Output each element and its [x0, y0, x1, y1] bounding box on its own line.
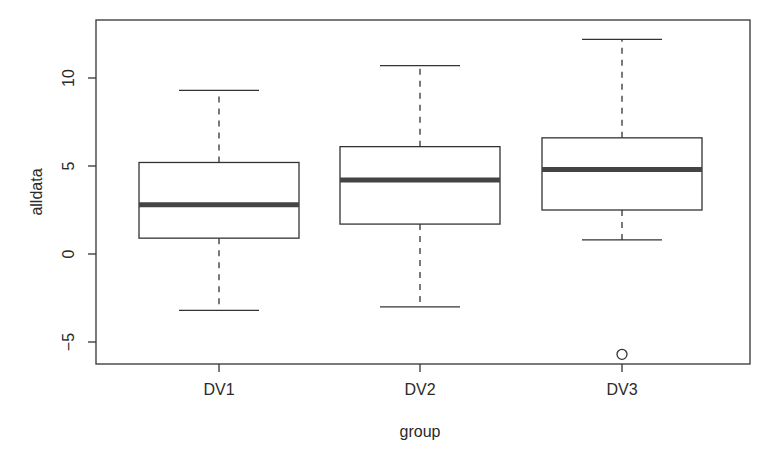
y-tick-label: 0: [60, 249, 77, 258]
iqr-box: [139, 162, 299, 238]
x-axis: DV1DV2DV3: [203, 364, 637, 398]
boxes: [139, 39, 702, 359]
plot-canvas: −50510 DV1DV2DV3 alldata group: [0, 0, 769, 457]
x-tick-label-dv3: DV3: [606, 381, 637, 398]
iqr-box: [542, 138, 702, 210]
boxplot-chart: −50510 DV1DV2DV3 alldata group: [0, 0, 769, 457]
y-tick-label: 10: [60, 69, 77, 87]
box-dv2: [340, 66, 500, 307]
x-tick-label-dv2: DV2: [404, 381, 435, 398]
y-tick-label: 5: [60, 161, 77, 170]
x-tick-label-dv1: DV1: [203, 381, 234, 398]
y-axis: −50510: [60, 69, 96, 351]
box-dv1: [139, 90, 299, 310]
iqr-box: [340, 147, 500, 224]
box-dv3: [542, 39, 702, 359]
x-axis-label: group: [400, 423, 441, 440]
y-axis-label: alldata: [28, 168, 45, 215]
y-tick-label: −5: [60, 333, 77, 351]
outlier-point: [617, 349, 627, 359]
